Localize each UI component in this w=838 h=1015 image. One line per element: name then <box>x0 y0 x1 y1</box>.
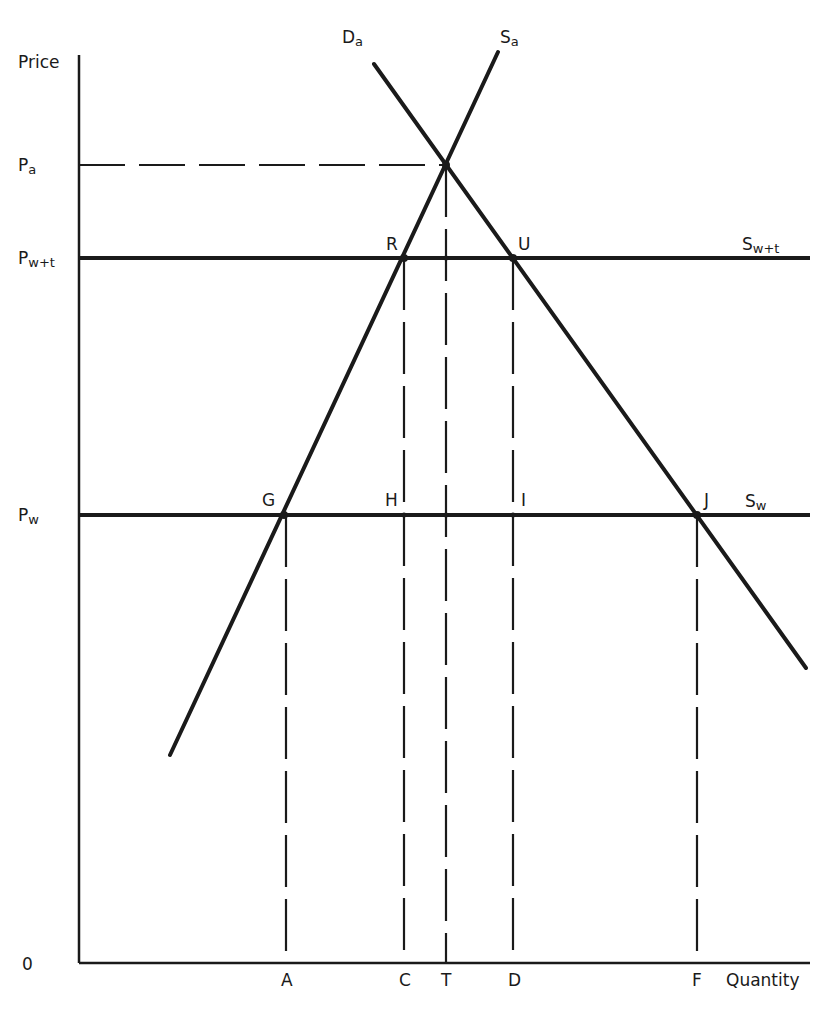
origin-label: 0 <box>22 954 33 974</box>
intersection-dots <box>280 161 701 519</box>
curve-label-sa: Sa <box>500 27 519 49</box>
curve-label-swt: Sw+t <box>742 234 779 256</box>
curve-label-da: Da <box>342 27 363 49</box>
axes <box>79 55 810 963</box>
point-label-j: J <box>703 490 709 510</box>
tariff-diagram: Price Quantity 0 Pa Pw+t Pw Da Sa Sw+t S… <box>0 0 838 1015</box>
point-label-g: G <box>262 490 275 510</box>
curve-label-sw: Sw <box>745 491 767 513</box>
quantity-tick-d: D <box>508 970 521 990</box>
quantity-axis-label: Quantity <box>726 970 799 990</box>
price-label-pwt: Pw+t <box>18 248 55 270</box>
point-label-u: U <box>518 234 530 254</box>
quantity-tick-c: C <box>399 970 411 990</box>
price-label-pa: Pa <box>18 155 36 177</box>
price-label-pw: Pw <box>18 505 39 527</box>
quantity-tick-t: T <box>440 970 452 990</box>
domestic-supply-curve <box>170 52 498 755</box>
price-axis-label: Price <box>18 52 59 72</box>
point-label-h: H <box>385 490 398 510</box>
quantity-tick-f: F <box>692 970 702 990</box>
point-label-i: I <box>521 490 526 510</box>
quantity-tick-a: A <box>281 970 293 990</box>
point-label-r: R <box>386 234 398 254</box>
domestic-demand-curve <box>374 64 806 668</box>
